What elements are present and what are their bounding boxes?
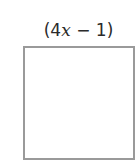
label-constant: 1	[96, 20, 107, 40]
square-shape	[23, 46, 135, 160]
label-close-paren: )	[107, 20, 114, 40]
label-operator: −	[71, 20, 96, 40]
label-variable: x	[61, 20, 71, 40]
side-length-label: (4x − 1)	[23, 18, 134, 42]
label-coefficient: 4	[50, 20, 61, 40]
